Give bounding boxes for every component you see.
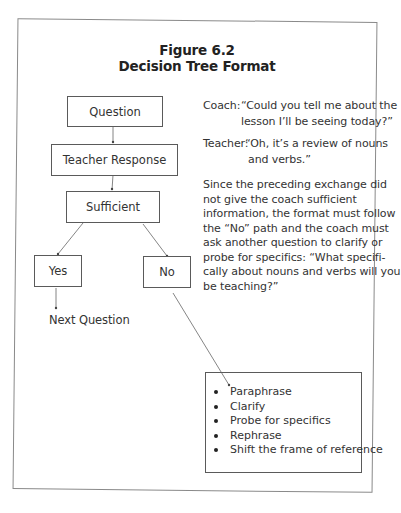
bullet-icon	[214, 405, 218, 409]
node-yes-label: Yes	[49, 264, 68, 278]
node-question-label: Question	[89, 105, 140, 119]
explanation-line: be teaching?”	[203, 280, 278, 293]
node-teacher-response: Teacher Response	[51, 144, 178, 176]
explanation-line: the “No” path and the coach must	[203, 222, 389, 235]
bullet-icon	[214, 434, 218, 438]
no-options-box: Paraphrase Clarify Probe for specifics R…	[205, 372, 362, 473]
connector-response-to-sufficient	[112, 175, 113, 190]
teacher-line-2: and verbs.”	[248, 153, 311, 166]
teacher-label: Teacher:	[203, 137, 248, 150]
connector-sufficient-to-yes	[58, 223, 83, 254]
explanation-line: probe for specifics: “What specifi-	[203, 251, 385, 264]
node-next-question: Next Question	[49, 313, 130, 327]
explanation-line: Since the preceding exchange did	[203, 178, 387, 191]
node-sufficient: Sufficient	[66, 191, 160, 223]
bullet-icon	[214, 448, 218, 452]
teacher-line-1: “Oh, it’s a review of nouns	[245, 137, 388, 150]
node-no-label: No	[159, 265, 175, 279]
coach-label: Coach:	[203, 99, 240, 112]
node-no: No	[143, 256, 191, 288]
connector-sufficient-to-no	[143, 224, 167, 256]
coach-line-1: “Could you tell me about the	[241, 99, 397, 112]
node-question: Question	[67, 96, 163, 127]
bullet-icon	[214, 419, 218, 423]
node-teacher-response-label: Teacher Response	[63, 153, 167, 167]
explanation-line: ask another question to clarify or	[203, 236, 382, 249]
node-yes: Yes	[34, 255, 82, 287]
explanation-line: not give the coach sufficient	[203, 193, 357, 206]
explanation-line: information, the format must follow	[203, 207, 395, 220]
explanation-line: cally about nouns and verbs will you	[203, 265, 401, 278]
bullet-icon	[214, 390, 218, 394]
coach-line-2: lesson I’ll be seeing today?”	[241, 115, 393, 128]
node-sufficient-label: Sufficient	[86, 200, 140, 214]
